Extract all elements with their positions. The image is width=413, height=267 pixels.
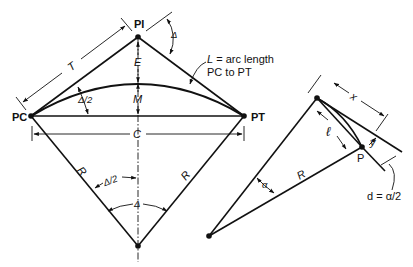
tangent-dim-upper bbox=[81, 26, 125, 59]
detail-radius-to-p bbox=[209, 147, 362, 236]
x-label: x bbox=[348, 89, 360, 103]
delta-center-arc-left bbox=[108, 204, 133, 211]
pc-label: PC bbox=[12, 111, 27, 123]
deflection-leader bbox=[389, 164, 394, 190]
tangent-ext-pi bbox=[121, 18, 132, 31]
arc-length-rest: = arc length bbox=[213, 53, 274, 65]
delta-center-label: Δ bbox=[133, 198, 140, 209]
tangent-label: T bbox=[65, 59, 79, 73]
center-point bbox=[135, 243, 141, 249]
arc-length-leader bbox=[190, 62, 206, 84]
curve-geometry-diagram: E M C T Δ Δ/2 L = arc length PC to PT R … bbox=[0, 0, 413, 267]
x-ext-end bbox=[376, 114, 388, 131]
detail-center-point bbox=[206, 233, 212, 239]
radius-left-label: R bbox=[75, 164, 89, 178]
pt-point bbox=[241, 113, 247, 119]
middle-ordinate-label: M bbox=[133, 93, 143, 105]
radius-right-line bbox=[138, 116, 244, 246]
detail-offset-extension bbox=[362, 147, 385, 171]
delta-center-arc-right bbox=[143, 204, 167, 211]
x-dim-right bbox=[361, 101, 384, 116]
chord-l-dim-top bbox=[317, 111, 328, 120]
arc-length-label-line1: L = arc length bbox=[207, 53, 274, 65]
delta-pi-label: Δ bbox=[170, 29, 177, 40]
pc-point bbox=[28, 113, 34, 119]
chord-l-dim-bottom bbox=[337, 136, 346, 149]
arc-length-label-line2: PC to PT bbox=[207, 66, 252, 78]
detail-p-point bbox=[359, 144, 365, 150]
deflection-dim bbox=[381, 156, 396, 165]
radius-right-label: R bbox=[178, 169, 192, 183]
half-delta-chord-label: Δ/2 bbox=[77, 94, 93, 105]
chord-l-label: ℓ bbox=[326, 124, 331, 139]
detail-start-point bbox=[314, 95, 320, 101]
tangent-ext-pc bbox=[16, 97, 26, 110]
deflection-label: d = α/2 bbox=[367, 190, 401, 202]
alpha-label: α bbox=[262, 179, 268, 190]
pi-label: PI bbox=[134, 18, 144, 30]
x-dim-left bbox=[334, 83, 349, 93]
radius-left-line bbox=[31, 116, 138, 246]
pt-label: PT bbox=[251, 111, 265, 123]
main-curve-diagram: E M C T Δ Δ/2 L = arc length PC to PT R … bbox=[12, 12, 274, 262]
external-label: E bbox=[134, 56, 142, 68]
x-ext-start bbox=[308, 75, 321, 93]
half-delta-center-leader-left bbox=[95, 183, 103, 188]
pi-point bbox=[135, 34, 141, 40]
half-delta-center-leader-right bbox=[122, 177, 136, 178]
half-delta-center-label: Δ/2 bbox=[101, 173, 120, 189]
p-label: P bbox=[357, 152, 364, 164]
chord-label: C bbox=[133, 128, 141, 140]
detail-offset-diagram: x y d = α/2 ℓ R α P bbox=[206, 75, 402, 239]
